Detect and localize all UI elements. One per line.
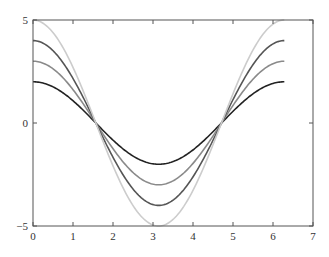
series-line-5 <box>33 20 284 226</box>
axes <box>33 20 313 226</box>
y-tick-label: −5 <box>16 220 28 232</box>
x-tick-label: 6 <box>270 230 276 242</box>
x-tick-label: 3 <box>150 230 156 242</box>
y-tick-label: 5 <box>23 14 29 26</box>
x-tick-label: 4 <box>190 230 196 242</box>
series-line-2 <box>33 82 284 164</box>
x-tick-label: 0 <box>30 230 36 242</box>
x-tick-label: 7 <box>310 230 316 242</box>
x-tick-label: 1 <box>70 230 76 242</box>
tick-labels: 01234567−505 <box>16 14 316 242</box>
series-line-3 <box>33 61 284 185</box>
plot-lines <box>33 20 284 226</box>
series-line-4 <box>33 41 284 206</box>
x-tick-label: 5 <box>230 230 236 242</box>
plot-frame <box>33 20 313 226</box>
x-tick-label: 2 <box>110 230 116 242</box>
line-chart: 01234567−505 <box>0 0 329 257</box>
y-tick-label: 0 <box>23 117 29 129</box>
